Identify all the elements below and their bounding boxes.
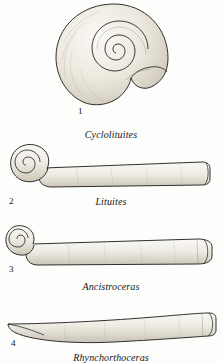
figure-number-1: 1 [78,107,83,116]
figure-number-3: 3 [9,265,14,274]
figure-caption-4: Rhynchorthoceras [0,352,222,363]
figure-1-cyclolituites [52,2,172,110]
rhynchorthoceras-drawing [4,308,218,352]
ancistroceras-drawing [4,224,216,270]
illustration-plate: 1 Cyclolituites [0,0,222,363]
figure-4-rhynchorthoceras [4,308,218,352]
figure-caption-2: Lituites [0,196,222,207]
figure-2-lituites [6,142,214,194]
figure-caption-3: Ancistroceras [0,281,222,292]
figure-number-4: 4 [11,339,16,348]
lituites-drawing [6,142,214,194]
figure-3-ancistroceras [4,224,216,270]
cyclolituites-drawing [52,2,172,110]
figure-caption-1: Cyclolituites [0,129,222,140]
